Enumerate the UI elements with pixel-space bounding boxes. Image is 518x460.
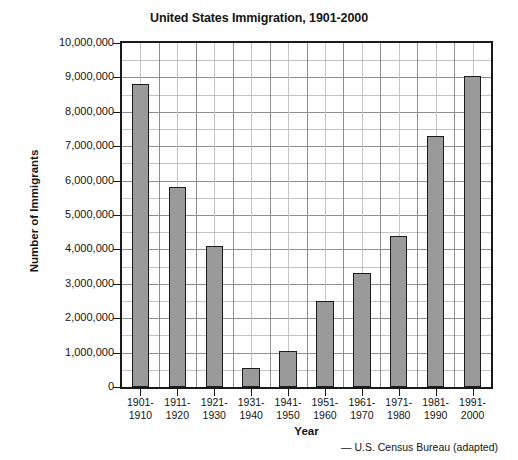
x-tick-mark — [473, 389, 474, 396]
x-tick-label-line: 1941- — [270, 396, 307, 409]
x-tick-label-line: 1911- — [159, 396, 196, 409]
x-tick-label-line: 1921- — [196, 396, 233, 409]
x-tick-mark — [362, 389, 363, 396]
x-tick-label: 1931-1940 — [233, 396, 270, 421]
x-tick-mark — [140, 389, 141, 396]
source-note: — U.S. Census Bureau (adapted) — [341, 441, 498, 453]
y-tick-label: 1,000,000 — [22, 346, 114, 358]
bar-series — [122, 43, 491, 387]
x-tick-mark — [214, 389, 215, 396]
y-tick-mark — [113, 284, 120, 285]
y-tick-mark — [113, 112, 120, 113]
y-tick-label: 7,000,000 — [22, 139, 114, 151]
bar — [279, 351, 296, 387]
bar — [132, 84, 149, 387]
x-tick-label-line: 1971- — [380, 396, 417, 409]
y-tick-label: 0 — [22, 380, 114, 392]
x-axis-title: Year — [120, 425, 493, 437]
y-tick-label: 10,000,000 — [22, 36, 114, 48]
x-tick-label-line: 1910 — [122, 409, 159, 422]
y-tick-mark — [113, 181, 120, 182]
x-tick-label-line: 1961- — [343, 396, 380, 409]
x-tick-label: 1991-2000 — [454, 396, 491, 421]
y-tick-label: 5,000,000 — [22, 208, 114, 220]
x-tick-label: 1901-1910 — [122, 396, 159, 421]
x-tick-label: 1971-1980 — [380, 396, 417, 421]
x-tick-label-line: 1930 — [196, 409, 233, 422]
y-tick-label: 2,000,000 — [22, 311, 114, 323]
x-tick-label: 1921-1930 — [196, 396, 233, 421]
y-axis-tick-labels: 01,000,0002,000,0003,000,0004,000,0005,0… — [18, 41, 114, 389]
x-tick-label: 1911-1920 — [159, 396, 196, 421]
y-tick-mark — [113, 318, 120, 319]
y-tick-label: 6,000,000 — [22, 174, 114, 186]
plot-area — [120, 41, 493, 389]
x-tick-label-line: 1951- — [307, 396, 344, 409]
bar — [427, 136, 444, 387]
x-tick-label-line: 1990 — [417, 409, 454, 422]
y-tick-mark — [113, 77, 120, 78]
x-tick-label-line: 1980 — [380, 409, 417, 422]
bar — [464, 76, 481, 387]
bar — [353, 273, 370, 387]
bar — [169, 187, 186, 387]
x-tick-label-line: 1981- — [417, 396, 454, 409]
y-tick-mark — [113, 353, 120, 354]
y-tick-mark — [113, 43, 120, 44]
x-tick-label-line: 1960 — [307, 409, 344, 422]
x-tick-label-line: 1931- — [233, 396, 270, 409]
x-tick-mark — [177, 389, 178, 396]
x-tick-mark — [288, 389, 289, 396]
y-tick-label: 9,000,000 — [22, 70, 114, 82]
x-tick-mark — [251, 389, 252, 396]
bar — [242, 368, 259, 387]
x-tick-label-line: 1991- — [454, 396, 491, 409]
y-tick-mark — [113, 387, 120, 388]
y-tick-label: 8,000,000 — [22, 105, 114, 117]
x-tick-label-line: 1920 — [159, 409, 196, 422]
bar — [390, 236, 407, 387]
x-tick-label-line: 1950 — [270, 409, 307, 422]
x-tick-mark — [399, 389, 400, 396]
x-tick-mark — [325, 389, 326, 396]
x-tick-label-line: 2000 — [454, 409, 491, 422]
y-tick-label: 4,000,000 — [22, 242, 114, 254]
y-tick-label: 3,000,000 — [22, 277, 114, 289]
chart-title: United States Immigration, 1901-2000 — [0, 11, 518, 25]
x-tick-label-line: 1901- — [122, 396, 159, 409]
x-tick-label: 1951-1960 — [307, 396, 344, 421]
y-tick-mark — [113, 249, 120, 250]
y-tick-mark — [113, 215, 120, 216]
x-axis-tick-labels: 1901-19101911-19201921-19301931-19401941… — [120, 396, 493, 428]
immigration-bar-chart-figure: United States Immigration, 1901-2000 Num… — [0, 0, 518, 460]
y-tick-mark — [113, 146, 120, 147]
x-tick-label: 1941-1950 — [270, 396, 307, 421]
bar — [206, 246, 223, 387]
x-tick-label-line: 1970 — [343, 409, 380, 422]
x-tick-label: 1981-1990 — [417, 396, 454, 421]
x-tick-label: 1961-1970 — [343, 396, 380, 421]
x-tick-label-line: 1940 — [233, 409, 270, 422]
bar — [316, 301, 333, 387]
x-tick-mark — [436, 389, 437, 396]
